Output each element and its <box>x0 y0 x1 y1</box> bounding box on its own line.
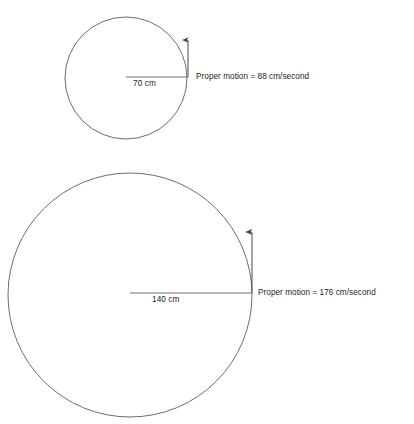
small-circle-outline <box>65 17 187 139</box>
large-circle-radius-label: 140 cm <box>152 296 179 304</box>
large-circle-proper-motion-label: Proper motion = 176 cm/second <box>258 289 376 297</box>
diagram-vector-layer <box>0 0 414 424</box>
small-circle-proper-motion-label: Proper motion = 88 cm/second <box>196 73 309 81</box>
small-circle-figure <box>65 17 188 139</box>
small-circle-radius-label: 70 cm <box>133 80 156 88</box>
large-circle-figure <box>8 173 252 417</box>
large-circle-outline <box>8 173 252 417</box>
diagram-canvas: 70 cm Proper motion = 88 cm/second 140 c… <box>0 0 414 424</box>
